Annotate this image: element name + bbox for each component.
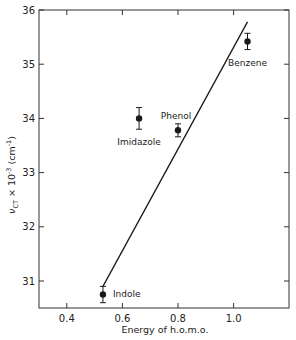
y-tick-label: 35 <box>22 59 35 70</box>
x-tick-label: 1.0 <box>226 313 242 324</box>
fit-line <box>103 22 248 286</box>
scatter-chart: 0.40.60.81.0 313233343536 IndoleImidazol… <box>0 0 296 340</box>
point-marker <box>136 115 142 121</box>
point-label: Imidazole <box>117 137 161 147</box>
x-tick-label: 0.4 <box>59 313 75 324</box>
point-label: Phenol <box>161 111 191 121</box>
point-marker <box>100 291 106 297</box>
point-marker <box>175 127 181 133</box>
data-point-imidazole: Imidazole <box>117 108 161 148</box>
point-label: Benzene <box>228 58 267 68</box>
point-label: Indole <box>113 289 141 299</box>
data-point-indole: Indole <box>100 286 141 302</box>
y-tick-label: 36 <box>22 5 35 16</box>
y-tick-label: 34 <box>22 113 35 124</box>
x-tick-label: 0.6 <box>114 313 130 324</box>
y-tick-label: 31 <box>22 276 35 287</box>
y-axis-title: νCT × 10-3 (cm-1) <box>5 136 20 214</box>
data-point-benzene: Benzene <box>228 33 267 68</box>
point-marker <box>244 38 250 44</box>
plot-frame <box>39 10 289 308</box>
x-axis-title: Energy of h.o.m.o. <box>121 324 208 335</box>
y-tick-label: 32 <box>22 221 35 232</box>
x-axis-ticks: 0.40.60.81.0 <box>59 10 242 324</box>
data-points: IndoleImidazolePhenolBenzene <box>100 33 268 302</box>
y-tick-label: 33 <box>22 167 35 178</box>
x-tick-label: 0.8 <box>170 313 186 324</box>
